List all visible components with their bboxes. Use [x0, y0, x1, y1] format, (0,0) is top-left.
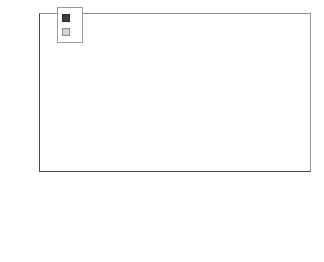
x-axis-labels [40, 178, 310, 262]
x-axis-ticks [40, 172, 310, 177]
stacked-bar-chart [0, 0, 324, 262]
legend-swatch-icon-single-parent [62, 14, 70, 22]
y-axis-title [3, 89, 23, 107]
chart-legend [57, 7, 83, 43]
legend-item-single-parent [62, 11, 75, 25]
legend-swatch-icon-step-family [62, 28, 70, 36]
legend-item-step-family [62, 25, 75, 39]
